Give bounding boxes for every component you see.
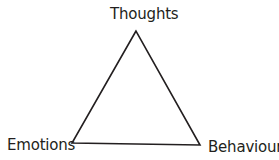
vertex-label-behaviours: Behaviours xyxy=(208,138,279,156)
vertex-label-thoughts: Thoughts xyxy=(110,5,178,23)
vertex-label-emotions: Emotions xyxy=(7,136,75,154)
